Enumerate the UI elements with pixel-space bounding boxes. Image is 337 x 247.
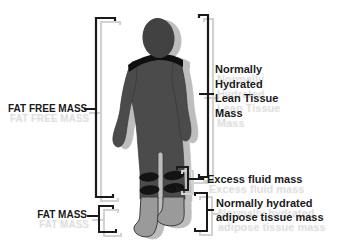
lean-tissue-line-4: Mass: [215, 106, 278, 121]
right-lower-leg-shape: [157, 197, 184, 226]
right-arm-shape: [172, 61, 191, 141]
adipose-line-2: adipose tissue mass: [216, 210, 324, 224]
fat-mass-label: FAT MASS: [30, 209, 87, 221]
lean-tissue-line-2: Hydrated: [215, 77, 278, 92]
lean-tissue-mass-label: Normally Hydrated Lean Tissue Mass: [215, 62, 278, 120]
leg-bands: [139, 170, 185, 196]
lean-tissue-line-3: Lean Tissue: [215, 91, 278, 106]
excess-fluid-mass-label: Excess fluid mass: [207, 173, 302, 186]
left-arm-shape: [113, 63, 137, 147]
torso-shape: [130, 57, 185, 199]
adipose-tissue-mass-label: Normally hydrated adipose tissue mass: [216, 196, 324, 224]
fat-free-mass-label: FAT FREE MASS: [8, 103, 84, 115]
adipose-line-1: Normally hydrated: [216, 196, 324, 210]
head-shape: [140, 16, 176, 59]
body-composition-diagram: FAT FREE MASS FAT MASS Normally Hydrated…: [0, 0, 337, 247]
left-lower-leg-shape: [134, 197, 158, 237]
shoulder-band-shape: [128, 54, 183, 72]
lean-tissue-line-1: Normally: [215, 62, 278, 77]
